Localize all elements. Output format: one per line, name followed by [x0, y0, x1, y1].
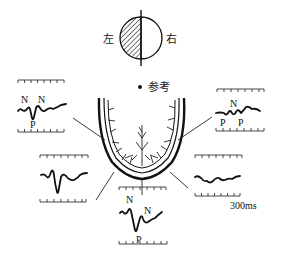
peak-label-n2: N — [144, 205, 151, 216]
lead-line-lower-right — [170, 172, 188, 188]
lead-line-middle-left — [96, 172, 114, 200]
vep-diagram: 左 右 参考 N N P N N P — [0, 0, 283, 255]
waveform-panel-bottom-center: N N P — [119, 187, 167, 245]
left-field-label: 左 — [103, 33, 114, 46]
time-scale-label: 300ms — [230, 200, 257, 211]
waveform-panel-lower-right: 300ms — [195, 155, 257, 211]
peak-label-n2: N — [38, 94, 45, 105]
peak-label-p1: P — [220, 117, 226, 128]
peak-label-n: N — [230, 98, 237, 109]
peak-label-n1: N — [126, 194, 133, 205]
peak-label-p2: P — [238, 117, 244, 128]
right-field-label: 右 — [166, 32, 177, 46]
peak-label-p: P — [136, 234, 142, 245]
occipital-cortex-illustration — [99, 98, 184, 179]
waveform-panel-upper-left: N N P — [18, 80, 66, 132]
waveform-panel-middle-left — [40, 155, 88, 202]
reference-electrode-icon — [138, 85, 142, 89]
visual-field-icon — [120, 10, 162, 66]
peak-label-n1: N — [21, 94, 28, 105]
reference-label: 参考 — [148, 80, 170, 94]
waveform-panel-upper-right: N P P — [216, 89, 264, 131]
peak-label-p: P — [30, 119, 36, 130]
